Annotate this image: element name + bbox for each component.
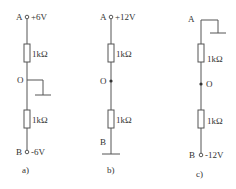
node-label: A (188, 14, 195, 24)
caption: a) (22, 165, 29, 175)
resistor-a-1 (24, 44, 30, 62)
terminal-b-top (109, 15, 113, 19)
resistor-b-1 (108, 44, 114, 62)
resistor-value: 1kΩ (116, 49, 132, 59)
resistor-value: 1kΩ (207, 54, 223, 64)
terminal-c-bottom (199, 153, 203, 157)
node-label: O (17, 75, 24, 85)
node-label: B (189, 150, 195, 160)
resistor-a-2 (24, 110, 30, 128)
caption: b) (107, 165, 115, 175)
node-label: O (206, 79, 213, 89)
resistor-value: 1kΩ (116, 115, 132, 125)
node-label: A (100, 12, 107, 22)
node-label: O (100, 76, 107, 86)
terminal-a-bottom (25, 150, 29, 154)
node-label: B (100, 137, 106, 147)
voltage-label: +6V (31, 12, 48, 22)
resistor-b-2 (108, 110, 114, 128)
resistor-value: 1kΩ (207, 116, 223, 126)
circuit-diagrams: A +6V 1kΩ O 1kΩ B -6V a) A +12V 1kΩ O 1k… (0, 0, 236, 189)
resistor-value: 1kΩ (32, 49, 48, 59)
resistor-c-1 (198, 44, 204, 62)
junction-dot (199, 82, 202, 85)
voltage-label: -6V (31, 147, 45, 157)
voltage-label: +12V (115, 12, 136, 22)
voltage-label: -12V (205, 150, 224, 160)
resistor-c-2 (198, 110, 204, 128)
junction-dot (109, 79, 112, 82)
circuit-b: A +12V 1kΩ O 1kΩ B b) (100, 12, 136, 175)
circuit-c: A 1kΩ O 1kΩ B -12V c) (188, 14, 226, 179)
node-label: B (16, 147, 22, 157)
node-label: A (16, 12, 23, 22)
circuit-a: A +6V 1kΩ O 1kΩ B -6V a) (16, 12, 51, 175)
resistor-value: 1kΩ (32, 115, 48, 125)
caption: c) (196, 169, 203, 179)
terminal-a-top (25, 15, 29, 19)
